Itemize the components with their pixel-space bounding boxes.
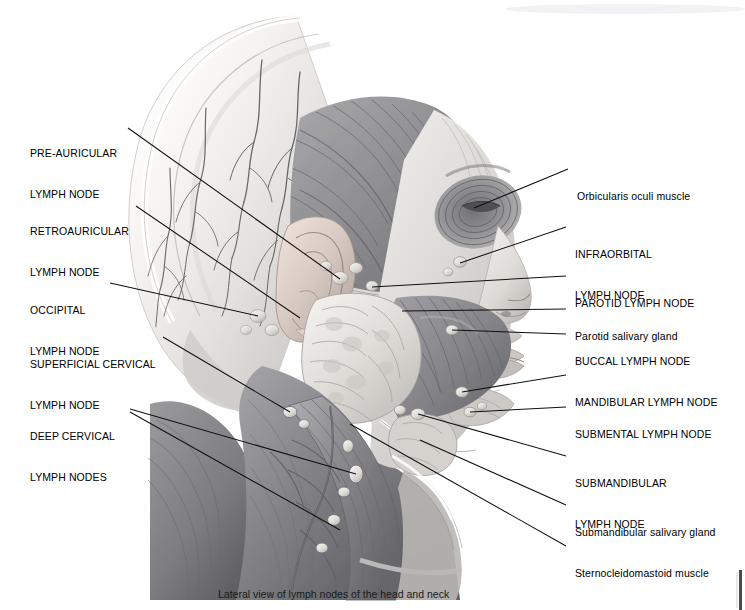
label-line-1: Sternocleidomastoid muscle: [575, 567, 709, 581]
label-sternocleidomastoid-muscle: Sternocleidomastoid muscle: [575, 540, 709, 608]
label-line-1: OCCIPITAL: [30, 304, 100, 318]
label-line-2: LYMPH NODES: [30, 471, 115, 485]
label-line-1: SUBMENTAL LYMPH NODE: [575, 428, 712, 442]
figure-caption: Lateral view of lymph nodes of the head …: [218, 588, 449, 600]
figure-page: PRE-AURICULAR LYMPH NODE RETROAURICULAR …: [0, 0, 745, 610]
label-line-1: RETROAURICULAR: [30, 225, 129, 239]
label-deep-cervical-lymph-nodes: DEEP CERVICAL LYMPH NODES: [30, 403, 115, 511]
label-line-1: PRE-AURICULAR: [30, 147, 117, 161]
label-line-1: SUBMANDIBULAR: [575, 477, 667, 491]
label-line-1: BUCCAL LYMPH NODE: [575, 355, 690, 369]
page-edge-highlight: [736, 572, 738, 608]
page-edge-bar: [739, 570, 742, 610]
label-line-1: DEEP CERVICAL: [30, 430, 115, 444]
label-line-1: Orbicularis oculi muscle: [577, 190, 690, 204]
label-line-1: Submandibular salivary gland: [575, 526, 716, 540]
label-line-1: INFRAORBITAL: [575, 248, 652, 262]
label-line-1: SUPERFICIAL CERVICAL: [30, 358, 156, 372]
